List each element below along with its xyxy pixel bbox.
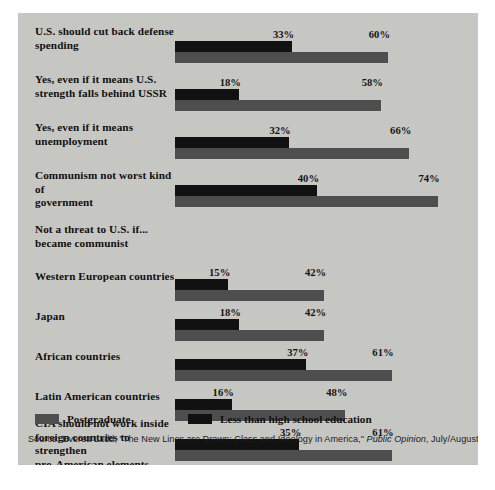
row-label-line: spending [35, 39, 175, 53]
chart-row-communism-not-worst: Communism not worst kind ofgovernment40%… [18, 171, 478, 225]
bar-value-less-than-high-school-defense-spending: 33% [273, 29, 294, 40]
bar-postgraduate-communism-not-worst [175, 196, 438, 207]
row-label-line: U.S. should cut back defense [35, 25, 175, 39]
legend-swatch-postgraduate [35, 414, 59, 424]
chart-legend: Postgraduate Less than high school educa… [35, 413, 465, 429]
bar-value-postgraduate-latin-american-countries: 48% [326, 387, 347, 398]
row-label-line: Western European countries [35, 270, 175, 284]
bar-value-less-than-high-school-western-european-countries: 15% [209, 267, 230, 278]
bar-value-less-than-high-school-japan: 18% [220, 307, 241, 318]
row-label-african-countries: African countries [35, 350, 175, 364]
row-label-unemployment: Yes, even if it meansunemployment [35, 121, 175, 148]
bar-value-postgraduate-african-countries: 61% [372, 347, 393, 358]
chart-row-cia-foreign-countries: CIA should not work insideforeign countr… [18, 425, 478, 465]
row-label-western-european-countries: Western European countries [35, 270, 175, 284]
bar-value-postgraduate-western-european-countries: 42% [305, 267, 326, 278]
row-label-line: Not a threat to U.S. if... [35, 223, 175, 237]
chart-panel: U.S. should cut back defensespending33%6… [18, 13, 478, 465]
row-label-line: strength falls behind USSR [35, 87, 175, 101]
row-label-line: Communism not worst kind of [35, 169, 175, 196]
legend-swatch-less-than-high-school [188, 414, 212, 424]
bar-value-postgraduate-defense-spending: 60% [369, 29, 390, 40]
bar-value-postgraduate-strength-behind-ussr: 58% [362, 77, 383, 88]
row-label-defense-spending: U.S. should cut back defensespending [35, 25, 175, 52]
row-label-line: became communist [35, 237, 175, 251]
legend-label-postgraduate: Postgraduate [67, 413, 130, 425]
bar-value-less-than-high-school-communism-not-worst: 40% [298, 173, 319, 184]
source-prefix: Source: Everett Ladd, "The New Lines are… [28, 434, 367, 444]
row-label-line: Latin American countries [35, 390, 175, 404]
bar-value-postgraduate-unemployment: 66% [390, 125, 411, 136]
bar-postgraduate-western-european-countries [175, 290, 324, 301]
row-label-line: government [35, 196, 175, 210]
bar-less-than-high-school-japan [175, 319, 239, 330]
row-label-line: African countries [35, 350, 175, 364]
legend-item-postgraduate: Postgraduate [35, 413, 130, 425]
bar-postgraduate-japan [175, 330, 324, 341]
bar-less-than-high-school-strength-behind-ussr [175, 89, 239, 100]
bar-postgraduate-defense-spending [175, 52, 388, 63]
bar-less-than-high-school-latin-american-countries [175, 399, 232, 410]
row-label-line: unemployment [35, 135, 175, 149]
bar-less-than-high-school-communism-not-worst [175, 185, 317, 196]
row-label-latin-american-countries: Latin American countries [35, 390, 175, 404]
bar-value-less-than-high-school-strength-behind-ussr: 18% [220, 77, 241, 88]
bar-value-postgraduate-communism-not-worst: 74% [419, 173, 440, 184]
legend-label-less-than-high-school: Less than high school education [220, 413, 372, 425]
row-label-japan: Japan [35, 310, 175, 324]
bar-less-than-high-school-defense-spending [175, 41, 292, 52]
row-label-line: Yes, even if it means [35, 121, 175, 135]
bar-less-than-high-school-western-european-countries [175, 279, 228, 290]
bar-value-less-than-high-school-african-countries: 37% [287, 347, 308, 358]
source-suffix: , July/August, 1978, p. 52. [426, 434, 478, 444]
source-publication: Public Opinion [367, 434, 426, 444]
bar-value-postgraduate-japan: 42% [305, 307, 326, 318]
bar-postgraduate-african-countries [175, 370, 392, 381]
bar-postgraduate-unemployment [175, 148, 409, 159]
row-label-line: pro-American elements [35, 458, 175, 466]
source-note: Source: Everett Ladd, "The New Lines are… [28, 434, 476, 444]
bar-less-than-high-school-unemployment [175, 137, 289, 148]
legend-item-less-than-high-school: Less than high school education [188, 413, 372, 425]
row-label-line: Yes, even if it means U.S. [35, 73, 175, 87]
bar-postgraduate-cia-foreign-countries [175, 450, 392, 461]
bar-postgraduate-strength-behind-ussr [175, 100, 381, 111]
row-label-not-a-threat-header: Not a threat to U.S. if...became communi… [35, 223, 175, 250]
row-label-communism-not-worst: Communism not worst kind ofgovernment [35, 169, 175, 210]
bar-value-less-than-high-school-unemployment: 32% [269, 125, 290, 136]
row-label-line: Japan [35, 310, 175, 324]
bar-value-less-than-high-school-latin-american-countries: 16% [213, 387, 234, 398]
bar-less-than-high-school-african-countries [175, 359, 306, 370]
row-label-strength-behind-ussr: Yes, even if it means U.S.strength falls… [35, 73, 175, 100]
